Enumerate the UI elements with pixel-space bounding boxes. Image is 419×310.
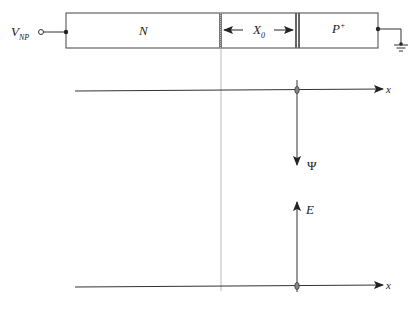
- top-x-axis-label: x: [386, 84, 391, 95]
- pn-junction-diagram: [0, 0, 419, 310]
- source-terminal-icon: [39, 30, 44, 35]
- bottom-x-label: x: [386, 279, 391, 291]
- psi-label: Ψ: [307, 159, 317, 172]
- e-text: E: [306, 202, 314, 217]
- p-region-label: P+: [332, 22, 345, 35]
- n-region-label: N: [139, 24, 148, 37]
- top-origin-marker: [295, 87, 299, 94]
- p-depletion-boundary: [295, 13, 300, 48]
- psi-text: Ψ: [307, 158, 317, 173]
- ground-icon: [394, 42, 408, 51]
- source-label-sub: NP: [19, 33, 29, 42]
- n-depletion-boundary: [219, 13, 222, 48]
- depletion-width-label: X0: [253, 23, 265, 40]
- top-x-label: x: [386, 83, 391, 95]
- e-label: E: [306, 203, 314, 216]
- x0-main: X: [253, 22, 261, 37]
- source-label-main: V: [11, 24, 19, 39]
- x0-sub: 0: [261, 31, 265, 40]
- left-contact-dot: [64, 30, 68, 34]
- top-x-axis: [75, 89, 383, 91]
- bottom-x-axis-label: x: [386, 280, 391, 291]
- p-main: P: [332, 21, 340, 36]
- source-voltage-label: VNP: [11, 25, 29, 42]
- bottom-x-axis: [75, 285, 383, 287]
- bottom-origin-marker: [295, 283, 299, 290]
- p-sup: +: [340, 21, 345, 30]
- n-label: N: [139, 23, 148, 38]
